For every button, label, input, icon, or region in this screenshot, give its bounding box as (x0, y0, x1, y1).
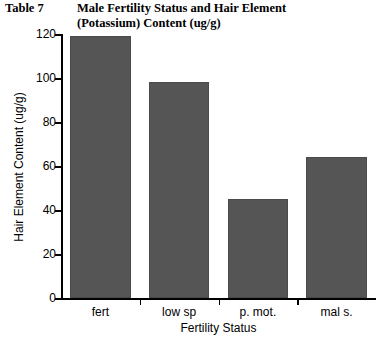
x-tick-mark (219, 299, 221, 305)
x-tick-label: p. mot. (240, 305, 277, 319)
chart-page: Table 7 Male Fertility Status and Hair E… (0, 0, 383, 337)
x-axis-label: Fertility Status (61, 321, 376, 335)
y-tick-mark (55, 34, 61, 36)
y-tick-mark (55, 210, 61, 212)
y-tick-mark (55, 298, 61, 300)
bar (70, 36, 131, 298)
y-tick-mark (55, 122, 61, 124)
bar (228, 199, 289, 298)
x-tick-label: fert (92, 305, 109, 319)
bar-series (0, 0, 383, 337)
x-tick-mark (297, 299, 299, 305)
bar (149, 82, 210, 298)
y-tick-mark (55, 78, 61, 80)
x-tick-mark (140, 299, 142, 305)
plot-area: Hair Element Content (ug/g) 020406080100… (0, 0, 383, 337)
y-tick-mark (55, 166, 61, 168)
x-tick-label: low sp (162, 305, 196, 319)
x-tick-label: mal s. (321, 305, 353, 319)
y-tick-mark (55, 254, 61, 256)
bar (306, 157, 367, 298)
x-axis-tick-labels: fertlow spp. mot.mal s. (0, 305, 383, 321)
